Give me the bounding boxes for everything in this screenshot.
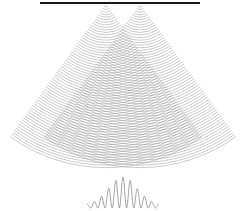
diagram-canvas — [0, 0, 244, 211]
double-slit-diagram — [0, 0, 244, 211]
interference-intensity-curve — [87, 177, 159, 208]
